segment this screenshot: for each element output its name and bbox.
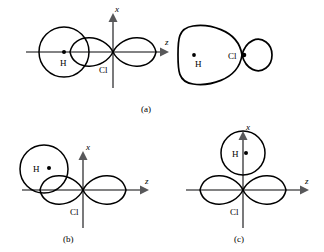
panel-b-cl-label: Cl [70,207,79,217]
panel-c-h-label: H [232,149,239,159]
panel-a-caption: (a) [141,104,151,114]
panel-b: z x H Cl (b) [20,142,149,244]
panel-a-mo-h-nucleus [192,53,196,57]
panel-c-cl-label: Cl [230,207,239,217]
panel-b-x-axis-label: x [85,142,90,152]
panel-a-mo-h-label: H [195,59,202,69]
panel-a-h-nucleus [62,50,66,54]
panel-c-h-nucleus [244,151,248,155]
panel-b-h-1s-orbital [20,145,68,193]
panel-c-x-axis [239,131,248,228]
panel-c-caption: (c) [234,234,244,244]
panel-a-h-label: H [60,58,67,68]
panel-c: z x H Cl (c) [186,122,309,244]
panel-b-caption: (b) [63,234,74,244]
panel-a: z x H Cl H Cl (a) [26,4,272,114]
panel-a-z-axis [26,48,169,57]
panel-c-z-axis-label: z [304,176,309,186]
panel-a-mo-small-lobe [242,39,272,70]
panel-b-h-nucleus [47,166,51,170]
panel-a-x-axis-label: x [114,4,119,14]
panel-b-z-axis-label: z [144,176,149,186]
panel-a-z-axis-label: z [164,37,169,47]
diagram-canvas: z x H Cl H Cl (a) z [0,0,324,252]
panel-b-h-label: H [33,164,40,174]
panel-a-molecular-orbital: H Cl [178,26,272,85]
orbital-overlap-figure: z x H Cl H Cl (a) z [0,0,324,252]
panel-a-cl-label: Cl [99,65,108,75]
panel-a-mo-cl-label: Cl [228,51,237,61]
panel-a-mo-cl-nucleus [242,53,247,58]
panel-c-z-axis [186,186,309,195]
